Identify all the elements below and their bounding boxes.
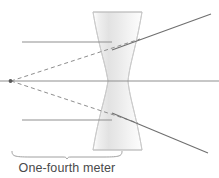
dimension-brace-group: [12, 151, 122, 159]
virtual-focal-point-marker: [9, 79, 13, 83]
dimension-brace-path: [12, 151, 122, 159]
optics-ray-diagram-figure: One-fourth meter: [0, 0, 219, 178]
dimension-caption-label: One-fourth meter: [0, 161, 134, 176]
ray-diagram-canvas: [0, 0, 219, 178]
